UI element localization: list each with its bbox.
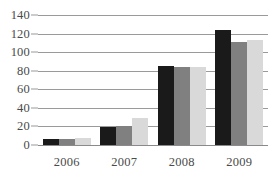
bar-chart-figure: 020406080100120140 2006200720082009 <box>0 0 275 183</box>
x-tick-label: 2009 <box>226 156 252 169</box>
x-tick-label: 2007 <box>111 156 137 169</box>
bar <box>43 139 59 145</box>
bar-group <box>211 15 269 145</box>
x-tick-label: 2006 <box>54 156 80 169</box>
bar <box>100 127 116 145</box>
y-tick-label: 0 <box>24 139 30 152</box>
bar <box>174 67 190 145</box>
bar <box>75 138 91 145</box>
bar <box>116 126 132 146</box>
y-axis: 020406080100120140 <box>0 15 30 145</box>
y-tick-mark <box>31 126 38 127</box>
bar <box>231 42 247 145</box>
bar-group <box>96 15 154 145</box>
bar-group <box>153 15 211 145</box>
x-tick-label: 2008 <box>169 156 195 169</box>
y-tick-label: 60 <box>17 83 30 96</box>
bar <box>158 66 174 145</box>
y-tick-mark <box>31 70 38 71</box>
y-tick-mark <box>31 145 38 146</box>
y-tick-mark <box>31 107 38 108</box>
bar <box>215 30 231 145</box>
gridline <box>38 145 268 146</box>
y-tick-label: 80 <box>17 64 30 77</box>
bar-group <box>38 15 96 145</box>
bar <box>247 40 263 145</box>
y-tick-mark <box>31 33 38 34</box>
y-tick-mark <box>31 15 38 16</box>
bar <box>190 67 206 145</box>
y-tick-label: 20 <box>17 120 30 133</box>
x-axis: 2006200720082009 <box>38 148 268 172</box>
bar <box>132 118 148 145</box>
bars-layer <box>38 15 268 145</box>
y-tick-mark <box>31 89 38 90</box>
bar <box>59 139 75 146</box>
y-tick-label: 140 <box>11 9 30 22</box>
y-tick-label: 100 <box>11 46 30 59</box>
y-tick-mark <box>31 52 38 53</box>
y-tick-label: 40 <box>17 102 30 115</box>
y-tick-label: 120 <box>11 27 30 40</box>
